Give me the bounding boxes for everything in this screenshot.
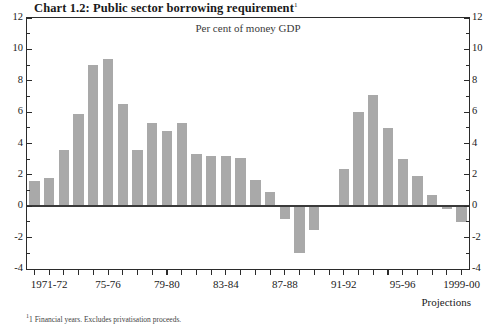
y-axis-label-left: 6 (0, 105, 23, 116)
projections-note: Projections (422, 296, 472, 308)
bar (368, 95, 378, 206)
y-tick-major (27, 49, 32, 50)
y-axis-label-left: 2 (0, 168, 23, 179)
x-tick (152, 269, 153, 275)
bar (221, 156, 231, 206)
x-tick (343, 269, 344, 275)
bar (147, 123, 157, 206)
x-tick (461, 269, 462, 275)
y-tick-major (464, 49, 469, 50)
y-tick-minor (466, 190, 469, 191)
y-tick-major (27, 237, 32, 238)
bar (265, 192, 275, 206)
bar (235, 158, 245, 207)
x-tick (402, 269, 403, 275)
y-tick-minor (466, 253, 469, 254)
y-axis-label-right: 12 (472, 11, 483, 22)
y-tick-major (464, 18, 469, 19)
y-tick-minor (466, 65, 469, 66)
x-tick (166, 269, 167, 275)
bar (177, 123, 187, 206)
bar (29, 181, 39, 206)
y-axis-label-left: 8 (0, 74, 23, 85)
x-tick (137, 269, 138, 275)
bar (456, 206, 466, 222)
y-tick-minor (466, 33, 469, 34)
bar (103, 59, 113, 206)
y-axis-label-left: 12 (0, 11, 23, 22)
bar (383, 128, 393, 206)
x-tick (78, 269, 79, 275)
x-tick (255, 269, 256, 275)
y-axis-label-left: 10 (0, 42, 23, 53)
x-axis-label: 87-88 (272, 278, 298, 290)
bar (294, 206, 304, 253)
x-tick (34, 269, 35, 275)
y-tick-major (464, 80, 469, 81)
plot-area: Per cent of money GDP (26, 17, 470, 270)
bar (280, 206, 290, 219)
bar (339, 169, 349, 207)
zero-axis-line (27, 205, 469, 207)
y-tick-major (464, 237, 469, 238)
x-tick (284, 269, 285, 275)
x-tick (314, 269, 315, 275)
bar (44, 178, 54, 206)
y-tick-minor (466, 221, 469, 222)
y-tick-minor (27, 127, 30, 128)
y-axis-label-right: 2 (472, 168, 477, 179)
y-tick-major (27, 80, 32, 81)
x-tick (108, 269, 109, 275)
y-axis-label-right: 8 (472, 74, 477, 85)
x-tick (432, 269, 433, 275)
bar (412, 176, 422, 206)
x-axis-label: 79-80 (154, 278, 180, 290)
x-tick (225, 269, 226, 275)
bar (88, 65, 98, 206)
y-tick-major (464, 112, 469, 113)
y-axis-label-left: -4 (0, 262, 23, 273)
x-tick (240, 269, 241, 275)
bar-series (27, 18, 469, 269)
x-axis-label: 91-92 (331, 278, 357, 290)
bar (250, 180, 260, 207)
x-tick (270, 269, 271, 275)
x-tick (93, 269, 94, 275)
x-tick (299, 269, 300, 275)
y-axis-label-right: 6 (472, 105, 477, 116)
page-title: Chart 1.2: Public sector borrowing requi… (34, 1, 298, 16)
y-tick-major (464, 206, 469, 207)
y-tick-major (464, 269, 469, 270)
x-tick (329, 269, 330, 275)
bar (59, 150, 69, 206)
x-tick (417, 269, 418, 275)
x-tick (122, 269, 123, 275)
chart-footnote: 11 Financial years. Excludes privatisati… (26, 313, 181, 324)
title-footnote-marker: 1 (294, 1, 298, 9)
y-axis-label-right: -2 (472, 231, 481, 242)
bar (206, 156, 216, 206)
x-axis-label: 83-84 (213, 278, 239, 290)
y-tick-minor (27, 96, 30, 97)
bar (132, 150, 142, 206)
y-tick-minor (466, 96, 469, 97)
y-tick-major (464, 143, 469, 144)
y-axis-label-left: 4 (0, 137, 23, 148)
bar (191, 154, 201, 206)
x-tick (211, 269, 212, 275)
bar (162, 131, 172, 206)
x-axis-label: 1971-72 (31, 278, 68, 290)
y-tick-minor (27, 65, 30, 66)
y-axis-label-right: -4 (472, 262, 481, 273)
y-tick-minor (27, 221, 30, 222)
bar (118, 104, 128, 206)
y-tick-major (464, 174, 469, 175)
chart-title-text: Chart 1.2: Public sector borrowing requi… (34, 1, 294, 15)
x-axis-label: 75-76 (95, 278, 121, 290)
y-axis-label-right: 0 (472, 199, 477, 210)
x-tick (181, 269, 182, 275)
footnote-text: 1 Financial years. Excludes privatisatio… (29, 315, 181, 324)
x-tick (373, 269, 374, 275)
y-tick-major (27, 143, 32, 144)
